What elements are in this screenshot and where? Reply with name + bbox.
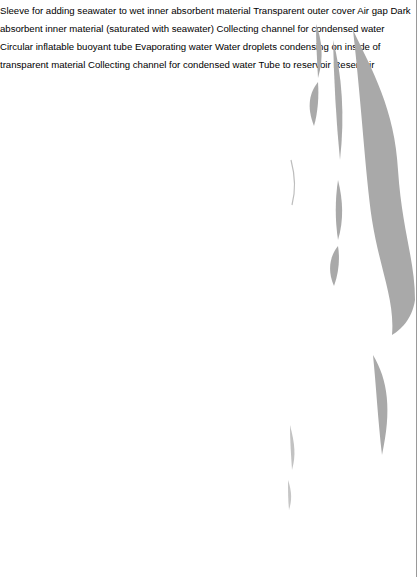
wave-8 — [290, 425, 294, 470]
wave-2 — [333, 40, 342, 160]
wave-6 — [330, 246, 339, 286]
wave-large — [353, 30, 415, 335]
ocean-waves — [288, 24, 415, 510]
wave-7 — [373, 355, 388, 455]
wave-4 — [310, 82, 319, 126]
wave-10 — [291, 160, 295, 205]
wave-3 — [316, 24, 322, 78]
solar-still-diagram — [0, 0, 417, 577]
wave-5 — [336, 180, 342, 240]
wave-9 — [288, 480, 291, 510]
